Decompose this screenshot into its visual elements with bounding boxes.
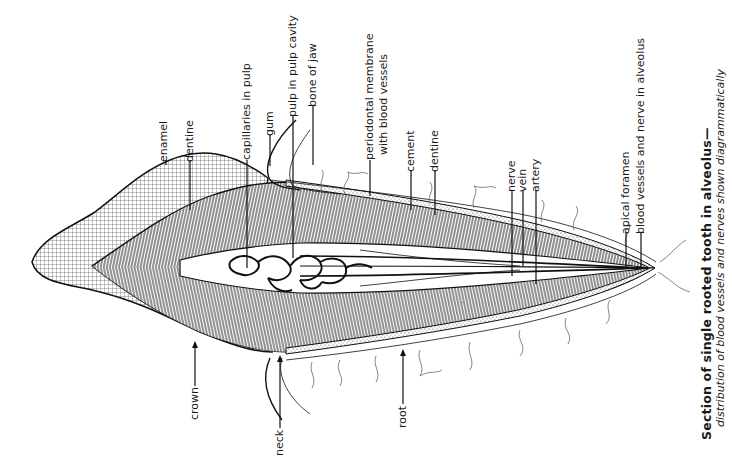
caption-part: shown: [714, 165, 727, 207]
caption-part: blood vessels: [714, 272, 727, 346]
label-vein: vein: [517, 169, 529, 192]
caption-part: diagrammatically: [714, 69, 727, 165]
label-crown: crown: [189, 387, 201, 420]
label-capillaries-in-pulp: capillaries in pulp: [241, 63, 253, 160]
label-apical-foramen: apical foramen: [620, 152, 632, 234]
label-cement: cement: [405, 130, 417, 172]
caption-title: Section of single rooted tooth in alveol…: [699, 127, 714, 440]
caption-part: and: [714, 245, 727, 273]
label-root: root: [397, 406, 409, 428]
tooth-section-diagram: enamel dentine capillaries in pulp gum p…: [0, 0, 732, 466]
label-periodontal-membrane: periodontal membrane: [364, 33, 376, 160]
label-pulp-in-pulp-cavity: pulp in pulp cavity: [287, 15, 299, 117]
label-bone-of-jaw: bone of jaw: [307, 43, 319, 107]
caption-part: distribution of: [714, 347, 727, 427]
caption-subtitle: distribution of blood vessels and nerves…: [714, 69, 727, 427]
label-dentine-crown: dentine: [184, 120, 196, 162]
label-gum: gum: [264, 111, 276, 136]
label-enamel: enamel: [158, 121, 170, 162]
label-artery: artery: [530, 159, 542, 192]
label-dentine-root: dentine: [429, 130, 441, 172]
caption-part: nerves: [714, 207, 727, 244]
label-with-blood-vessels: with blood vessels: [378, 54, 390, 155]
label-blood-vessels-and-nerve-in-alveolus: blood vessels and nerve in alveolus: [635, 38, 647, 234]
label-neck: neck: [274, 430, 286, 456]
